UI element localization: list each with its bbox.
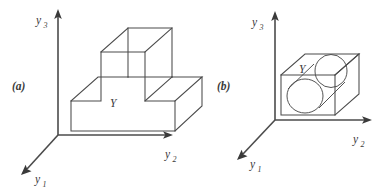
panel-b-axis-y1: y 1 [237,120,275,174]
panel-a-solid-right-shelf-top [172,77,202,101]
panel-a-y1-axis-line [27,135,58,169]
panel-a-y1-label: y [34,173,41,186]
panel-a-body-label: Y [110,97,118,109]
panel-a-axis-y2: y 2 [58,131,177,163]
panel-a-solid-upright-top-right-edge [145,28,172,52]
panel-b-cylinder [287,55,347,114]
panel-a-caption: (a) [12,80,26,93]
panel-a-solid-left-shelf-top [71,77,128,101]
panel-a-y3-label: y [35,14,42,27]
panel-b-cylinder-front-circle [287,79,323,113]
panel-b-axis-y2: y 2 [275,116,372,148]
panel-a: y 3 y 2 y 1 [12,9,202,188]
figure-container: y 3 y 2 y 1 [0,0,383,188]
technical-figure-svg: y 3 y 2 y 1 [0,0,383,188]
panel-a-solid-front-face [71,52,175,131]
panel-a-stepped-solid [71,28,202,131]
panel-b-y1-axis-line [243,120,275,154]
panel-a-y2-subscript: 2 [173,155,177,164]
panel-a-solid-right-side-face [175,77,202,131]
panel-b-cylinder-back-circle [315,55,347,88]
panel-b-box-right-face [335,54,359,115]
panel-b-y1-subscript: 1 [258,165,262,174]
panel-b-y3-label: y [251,16,258,29]
panel-b-y2-subscript: 2 [361,140,365,149]
panel-a-y2-label: y [164,148,171,161]
panel-a-axis-y3: y 3 [35,9,62,135]
panel-b-axis-y3: y 3 [251,11,279,120]
panel-b-y2-label: y [352,133,359,146]
panel-b: y 3 y 2 y 1 [217,11,372,174]
panel-b-y3-subscript: 3 [259,23,264,32]
panel-a-y1-subscript: 1 [43,180,47,189]
panel-b-y1-label: y [249,158,256,171]
panel-b-box-front-face [281,75,335,115]
panel-b-body-label: Y [299,63,307,75]
panel-a-solid-right-shelf-inner-edge [145,77,172,101]
panel-b-caption: (b) [217,80,231,93]
panel-a-y3-subscript: 3 [43,21,48,30]
panel-a-axis-y1: y 1 [21,135,58,188]
